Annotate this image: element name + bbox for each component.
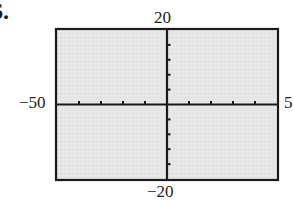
x-min-label: −50 [19,94,46,111]
y-max-label: 20 [154,9,171,26]
x-max-label: 50 [284,94,293,111]
y-min-label: −20 [147,183,174,200]
